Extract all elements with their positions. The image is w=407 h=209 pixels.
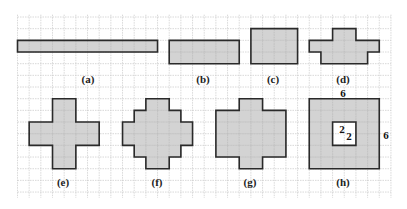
- shape-d: [309, 29, 379, 64]
- shape-e: [29, 99, 99, 169]
- shape-label-c: (c): [267, 73, 280, 86]
- h-width-label: 6: [340, 87, 346, 99]
- shape-a: [18, 40, 158, 52]
- hole-height-label: 2: [346, 130, 352, 142]
- shape-label-e: (e): [57, 176, 70, 189]
- polyomino-figure: (a)(b)(c)(d)(e)(f)(g)(h)6622: [0, 0, 407, 209]
- hole-width-label: 2: [339, 123, 345, 135]
- shape-label-f: (f): [152, 176, 163, 189]
- shape-label-b: (b): [196, 73, 210, 86]
- shape-b: [169, 40, 239, 64]
- shape-label-a: (a): [82, 73, 95, 86]
- shape-label-g: (g): [244, 176, 257, 189]
- h-height-label: 6: [383, 129, 389, 141]
- shape-g: [216, 99, 286, 169]
- shape-c: [251, 29, 298, 64]
- shape-label-h: (h): [336, 176, 350, 189]
- shape-label-d: (d): [336, 73, 350, 86]
- shape-f: [123, 99, 193, 169]
